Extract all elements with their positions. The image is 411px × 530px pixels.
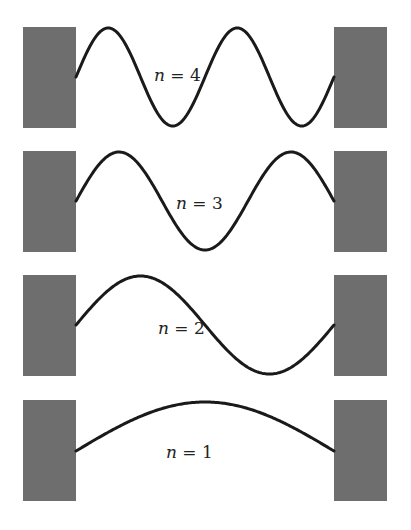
standing-wave-n2 xyxy=(76,276,334,374)
mode-label: n = 3 xyxy=(176,193,223,213)
left-wall xyxy=(23,275,76,376)
standing-waves-diagram: n = 4n = 3n = 2n = 1 xyxy=(0,0,411,530)
mode-row-n4: n = 4 xyxy=(23,27,387,128)
left-wall xyxy=(23,151,76,252)
mode-label: n = 4 xyxy=(154,65,201,85)
right-wall xyxy=(334,151,387,252)
mode-row-n1: n = 1 xyxy=(23,400,387,501)
left-wall xyxy=(23,27,76,128)
mode-label: n = 1 xyxy=(166,442,213,462)
mode-row-n2: n = 2 xyxy=(23,275,387,376)
mode-row-n3: n = 3 xyxy=(23,151,387,252)
standing-wave-n4 xyxy=(76,28,334,126)
mode-label: n = 2 xyxy=(158,318,205,338)
right-wall xyxy=(334,275,387,376)
left-wall xyxy=(23,400,76,501)
right-wall xyxy=(334,27,387,128)
right-wall xyxy=(334,400,387,501)
